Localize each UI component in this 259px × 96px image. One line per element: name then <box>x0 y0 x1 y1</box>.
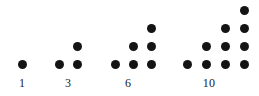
dot <box>240 60 249 69</box>
dot <box>240 42 249 51</box>
dot <box>221 42 230 51</box>
triangular-numbers-figure: 13610 <box>0 0 259 96</box>
group-label-10: 10 <box>203 77 215 89</box>
group-label-6: 6 <box>125 77 131 89</box>
dot <box>221 24 230 33</box>
dot <box>183 60 192 69</box>
dot <box>240 6 249 15</box>
dot <box>221 60 230 69</box>
group-label-1: 1 <box>19 77 25 89</box>
dot <box>240 24 249 33</box>
dot <box>202 42 211 51</box>
dot <box>202 60 211 69</box>
group-label-3: 3 <box>65 77 71 89</box>
